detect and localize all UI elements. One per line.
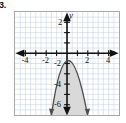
x-tick-label-2: 2 (85, 55, 89, 65)
problem-number: 3. (0, 0, 6, 10)
y-tick-label-2: 2 (58, 17, 62, 27)
axis-text-labels: y x -4 -2 2 4 2 -2 -4 -6 (15, 12, 119, 115)
graph-figure: y x -4 -2 2 4 2 -2 -4 -6 (14, 11, 120, 116)
y-tick-label-neg2: -2 (54, 58, 61, 68)
x-tick-label-4: 4 (106, 55, 110, 65)
y-tick-label-neg6: -6 (54, 99, 61, 109)
x-tick-label-neg4: -4 (22, 55, 29, 65)
y-tick-label-neg4: -4 (54, 79, 61, 89)
x-tick-label-neg2: -2 (42, 55, 49, 65)
y-axis-label: y (69, 11, 73, 20)
x-axis-label: x (111, 47, 115, 57)
